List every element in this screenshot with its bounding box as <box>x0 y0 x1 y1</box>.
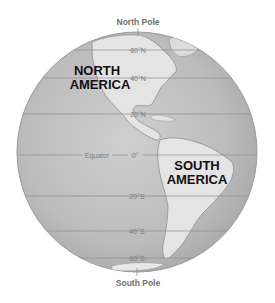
north-america-label-line2: AMERICA <box>70 77 131 92</box>
latitude-label-60s: 60°S <box>129 255 145 262</box>
south-america-label-line2: AMERICA <box>167 172 228 187</box>
south-america-label-line1: SOUTH <box>174 158 220 173</box>
north-pole-label: North Pole <box>117 17 160 27</box>
latitude-label-0: 0° <box>132 152 139 159</box>
equator-label: Equator <box>85 152 110 160</box>
south-pole-label: South Pole <box>116 278 161 288</box>
latitude-label-20n: 20°N <box>130 111 146 118</box>
latitude-label-60n: 60°N <box>130 47 146 54</box>
latitude-label-20s: 20°S <box>129 193 145 200</box>
globe-diagram: North Pole South Pole 60°N 40°N 20°N Equ… <box>0 0 275 303</box>
north-america-label-line1: NORTH <box>74 63 120 78</box>
latitude-label-40n: 40°N <box>130 75 146 82</box>
latitude-label-40s: 40°S <box>129 228 145 235</box>
